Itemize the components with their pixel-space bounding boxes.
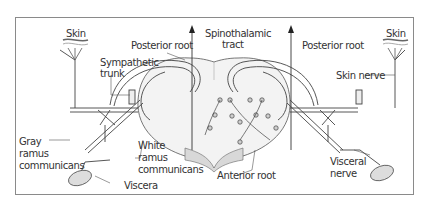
label-gray-3: communicans xyxy=(19,160,84,171)
label-anterior-root: Anterior root xyxy=(217,170,275,181)
label-gray-1: Gray xyxy=(19,136,41,147)
label-spinothalamic-1: Spinothalamic xyxy=(205,28,271,39)
skin-icon-right xyxy=(383,39,408,60)
label-visceral-2: nerve xyxy=(330,168,357,179)
label-gray-2: ramus xyxy=(19,148,49,159)
skin-icon-left xyxy=(63,39,88,60)
label-white-1: White xyxy=(138,140,165,151)
sympathetic-chain-right xyxy=(287,50,405,165)
arrow-up-icon xyxy=(189,25,195,33)
label-posterior-root-left: Posterior root xyxy=(131,40,193,51)
label-posterior-root-right: Posterior root xyxy=(302,40,364,51)
arrow-up-icon xyxy=(288,25,294,33)
label-spinothalamic-2: tract xyxy=(222,39,244,50)
label-visceral-1: Visceral xyxy=(330,156,366,167)
label-sympathetic-2: trunk xyxy=(100,68,125,79)
label-skin-nerve: Skin nerve xyxy=(336,70,385,81)
viscera-icon-right xyxy=(368,162,395,183)
label-white-3: communicans xyxy=(138,164,203,175)
label-sympathetic-1: Sympathetic xyxy=(100,57,159,68)
label-skin-left: Skin xyxy=(66,28,86,39)
label-white-2: ramus xyxy=(138,152,168,163)
label-viscera: Viscera xyxy=(124,180,158,191)
label-skin-right: Skin xyxy=(386,28,406,39)
